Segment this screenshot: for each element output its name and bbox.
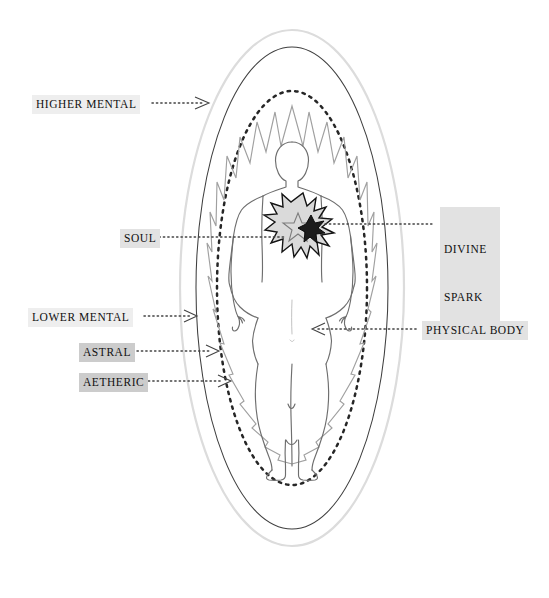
human-silhouette bbox=[229, 142, 355, 480]
label-astral: ASTRAL bbox=[79, 343, 135, 362]
aura-diagram: HIGHER MENTAL LOWER MENTAL ASTRAL AETHER… bbox=[0, 0, 549, 598]
label-divine-spark: DIVINE SPARK bbox=[440, 207, 500, 339]
arrowhead-lower-mental bbox=[184, 310, 197, 322]
label-lower-mental: LOWER MENTAL bbox=[28, 308, 133, 327]
label-divine-spark-line1: DIVINE bbox=[444, 241, 496, 257]
label-higher-mental: HIGHER MENTAL bbox=[32, 95, 140, 114]
label-soul: SOUL bbox=[120, 229, 160, 248]
soul-starburst-outer bbox=[264, 193, 334, 258]
dotted-oval bbox=[217, 91, 367, 485]
heart-starburst bbox=[264, 193, 334, 258]
label-divine-spark-line2: SPARK bbox=[444, 289, 496, 305]
label-physical-body: PHYSICAL BODY bbox=[422, 321, 528, 340]
label-aetheric: AETHERIC bbox=[79, 373, 148, 392]
